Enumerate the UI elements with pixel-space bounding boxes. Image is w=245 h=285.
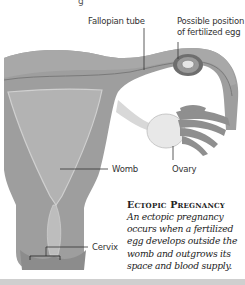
label-fallopian-tube: Fallopian tube: [88, 16, 145, 26]
label-possible-position-1: Possible position: [177, 16, 244, 26]
label-womb: Womb: [112, 164, 138, 174]
label-ovary: Ovary: [172, 164, 196, 174]
caption-body: An ectopic pregnancy occurs when a ferti…: [127, 211, 245, 272]
label-possible-position-2: of fertilized egg: [177, 27, 240, 37]
caption-title: Ectopic Pregnancy: [127, 199, 245, 211]
fimbriae: [176, 105, 230, 156]
bottom-divider-bar: [0, 279, 245, 285]
fertilized-egg: [182, 60, 194, 68]
title-fragment: g: [78, 0, 84, 6]
ovary: [147, 114, 185, 148]
caption: Ectopic Pregnancy An ectopic pregnancy o…: [127, 199, 245, 272]
label-cervix: Cervix: [92, 242, 118, 252]
